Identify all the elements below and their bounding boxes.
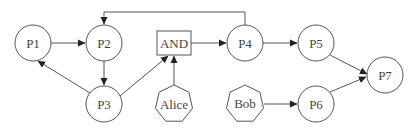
node-label: P3: [97, 97, 111, 112]
edge-p5-p7: [330, 55, 367, 74]
node-label: P1: [26, 36, 40, 51]
node-alice[interactable]: Alice: [156, 85, 193, 121]
node-label: Bob: [234, 96, 256, 111]
node-label: AND: [160, 36, 188, 51]
node-label: P2: [97, 36, 111, 51]
node-label: P5: [309, 36, 323, 51]
node-p2[interactable]: P2: [86, 25, 122, 61]
node-p6[interactable]: P6: [298, 86, 334, 122]
edge-p4-p2: [104, 12, 245, 25]
node-p3[interactable]: P3: [86, 86, 122, 122]
edge-p3-and: [120, 56, 168, 96]
node-label: P6: [309, 97, 323, 112]
flow-diagram: P1 P2 P3 AND Alice P4 P5 Bob P6 P7: [0, 0, 412, 133]
node-bob[interactable]: Bob: [227, 85, 264, 121]
node-p1[interactable]: P1: [15, 25, 51, 61]
node-p7[interactable]: P7: [367, 57, 403, 93]
node-label: P7: [378, 68, 392, 83]
node-label: P4: [238, 36, 252, 51]
node-p5[interactable]: P5: [298, 25, 334, 61]
node-and[interactable]: AND: [157, 31, 191, 55]
edge-p6-p7: [330, 77, 366, 92]
node-label: Alice: [160, 97, 188, 112]
edge-p3-p1: [38, 61, 90, 93]
node-p4[interactable]: P4: [227, 25, 263, 61]
